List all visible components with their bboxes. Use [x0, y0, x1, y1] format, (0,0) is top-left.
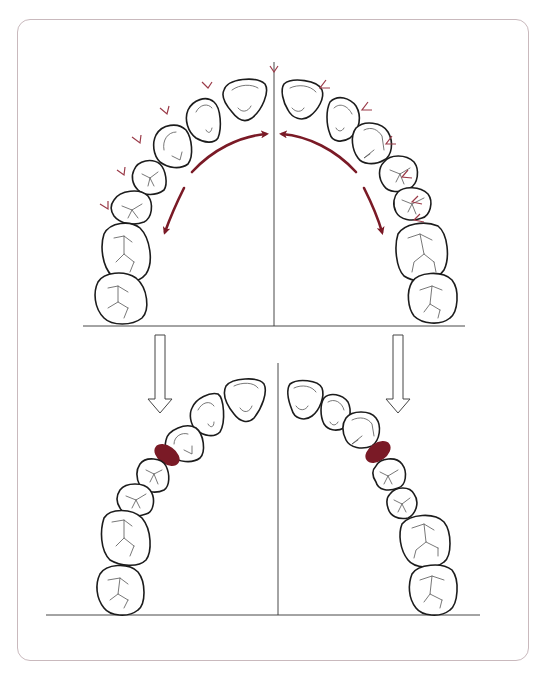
chevron-icon	[132, 135, 141, 143]
lower-left-teeth	[97, 379, 265, 615]
tooth-lower-right-first-molar	[400, 515, 450, 567]
chevron-icon	[320, 80, 330, 88]
dental-arch-diagram	[0, 0, 546, 680]
tooth-lower-right-canine	[343, 412, 379, 448]
tooth-lower-right-first-premolar	[373, 459, 405, 490]
lower-arch-panel	[46, 363, 480, 615]
tooth-lower-right-second-premolar	[387, 488, 417, 519]
upper-red-arrows	[165, 134, 382, 232]
tooth-upper-right-second-molar	[408, 273, 457, 323]
curved-arrow-left-to-molar-icon	[165, 188, 184, 232]
upper-left-teeth	[95, 79, 266, 324]
tooth-lower-right-second-molar	[409, 565, 457, 615]
tooth-lower-left-second-molar	[97, 565, 144, 615]
upper-arch-panel	[83, 62, 465, 326]
chevron-icon	[362, 102, 372, 110]
chevron-icon	[117, 167, 125, 175]
lower-right-teeth	[288, 381, 457, 616]
chevron-icon	[100, 201, 108, 209]
curved-arrow-right-to-molar-icon	[364, 188, 382, 232]
tooth-upper-left-canine	[154, 125, 192, 167]
tooth-lower-left-central-incisor	[224, 379, 265, 422]
left-down-arrow-icon	[148, 335, 172, 413]
tooth-lower-left-first-molar	[102, 511, 151, 566]
transition-arrows	[148, 335, 410, 413]
tooth-upper-right-canine	[352, 123, 391, 164]
tooth-upper-left-second-premolar	[111, 191, 151, 224]
tooth-upper-right-first-molar	[396, 223, 447, 281]
chevron-icon	[202, 82, 212, 88]
tooth-upper-left-second-molar	[95, 273, 147, 324]
chevron-icon	[160, 106, 169, 114]
right-down-arrow-icon	[386, 335, 410, 413]
